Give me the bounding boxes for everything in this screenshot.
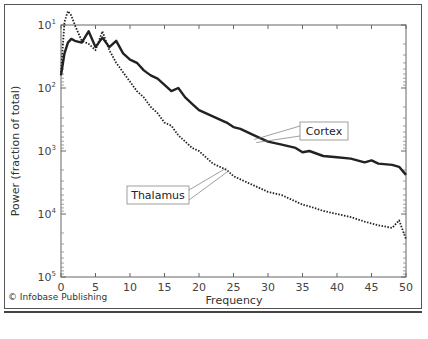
x-axis-title: Frequency bbox=[206, 294, 263, 307]
y-axis-title: Power (fraction of total) bbox=[9, 86, 22, 216]
series-cortex bbox=[61, 31, 406, 175]
plot-axes: 05101520253035404550101102103104105 bbox=[38, 18, 413, 294]
x-tick-label: 10 bbox=[123, 281, 137, 294]
power-spectrum-chart: 05101520253035404550101102103104105 Cort… bbox=[0, 0, 428, 339]
plot-area bbox=[61, 25, 406, 277]
y-tick-label: 103 bbox=[38, 144, 56, 158]
x-tick-label: 45 bbox=[365, 281, 379, 294]
x-tick-label: 15 bbox=[158, 281, 172, 294]
bottom-rule bbox=[4, 311, 422, 313]
x-tick-label: 25 bbox=[227, 281, 241, 294]
credit-text: © Infobase Publishing bbox=[8, 292, 107, 302]
callout-label-thalamus: Thalamus bbox=[130, 189, 185, 202]
x-tick-label: 30 bbox=[261, 281, 275, 294]
y-tick-label: 104 bbox=[38, 207, 57, 221]
y-tick-label: 102 bbox=[38, 81, 56, 95]
x-tick-label: 35 bbox=[296, 281, 310, 294]
data-lines bbox=[61, 11, 406, 239]
x-tick-label: 20 bbox=[192, 281, 206, 294]
callouts: CortexThalamus bbox=[127, 122, 348, 204]
y-tick-label: 105 bbox=[38, 270, 56, 284]
x-tick-label: 40 bbox=[330, 281, 344, 294]
callout-label-cortex: Cortex bbox=[306, 125, 343, 138]
y-tick-label: 101 bbox=[38, 18, 56, 32]
x-tick-label: 50 bbox=[399, 281, 413, 294]
